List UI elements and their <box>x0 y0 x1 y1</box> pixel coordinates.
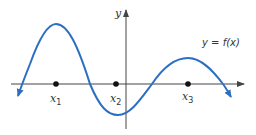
y-axis-label: y <box>114 7 122 20</box>
function-curve-left-end <box>18 64 30 96</box>
point-x1 <box>53 81 59 87</box>
label-x3: x3 <box>182 90 193 105</box>
label-x2: x2 <box>110 92 121 107</box>
label-x1: x1 <box>50 92 61 107</box>
function-graph: y x1 x2 x3 y = f(x) <box>0 0 256 135</box>
function-label: y = f(x) <box>201 37 240 48</box>
point-x3 <box>185 81 191 87</box>
point-x2 <box>113 81 119 87</box>
function-curve-right-end <box>223 84 231 97</box>
